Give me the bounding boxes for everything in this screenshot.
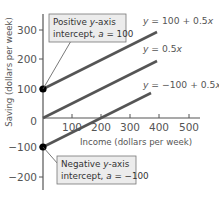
y-tick-neg100: −100 bbox=[8, 141, 37, 153]
x-tick-300: 300 bbox=[120, 121, 140, 133]
x-axis-title: Income (dollars per week) bbox=[80, 137, 192, 147]
y-tick-200: 200 bbox=[17, 53, 37, 65]
svg-text:Positive y-axis: Positive y-axis bbox=[53, 17, 116, 27]
equation-label-1: y = 100 + 0.5x bbox=[142, 15, 214, 26]
saving-income-chart: 300 200 100 0 −100 −200 100 200 300 400 … bbox=[0, 0, 219, 198]
positive-intercept-callout: Positive y-axis intercept, a = 100 bbox=[49, 14, 134, 42]
svg-text:intercept, a = 100: intercept, a = 100 bbox=[53, 29, 134, 39]
equation-label-2: y = 0.5x bbox=[142, 43, 183, 54]
equation-label-3: y = −100 + 0.5x bbox=[142, 79, 219, 90]
y-tick-100: 100 bbox=[17, 83, 37, 95]
y-axis-title: Saving (dollars per week) bbox=[4, 17, 14, 127]
x-tick-500: 500 bbox=[179, 121, 199, 133]
y-tick-neg200: −200 bbox=[8, 171, 37, 183]
x-tick-400: 400 bbox=[149, 121, 169, 133]
y-tick-0: 0 bbox=[30, 115, 37, 127]
negative-callout-leader bbox=[43, 147, 58, 164]
negative-intercept-callout: Negative y-axis intercept, a = −100 bbox=[57, 156, 149, 184]
svg-text:intercept, a = −100: intercept, a = −100 bbox=[61, 171, 149, 181]
y-tick-300: 300 bbox=[17, 24, 37, 36]
line-zero-intercept bbox=[43, 61, 157, 118]
svg-text:Negative y-axis: Negative y-axis bbox=[61, 159, 130, 169]
